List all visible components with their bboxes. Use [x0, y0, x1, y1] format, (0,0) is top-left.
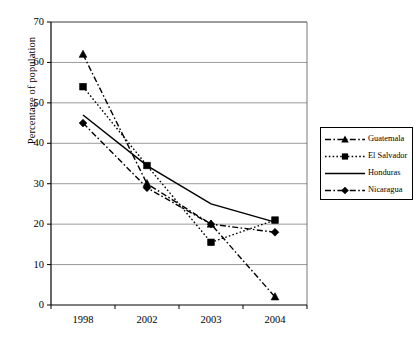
legend-entry-honduras: Honduras: [321, 165, 412, 182]
series-line-guatemala: [83, 54, 275, 297]
chart-legend: GuatemalaEl SalvadorHondurasNicaragua: [320, 127, 413, 200]
x-axis-tick-label: 1998: [53, 315, 113, 325]
legend-label: Honduras: [368, 168, 401, 177]
x-axis-tick-label: 2004: [245, 315, 305, 325]
legend-label: Guatemala: [368, 134, 404, 143]
data-point-el-salvador-2003: [208, 239, 215, 246]
legend-entry-el-salvador: El Salvador: [321, 148, 412, 165]
legend-swatch-square-dotted: [324, 148, 366, 165]
series-line-nicaragua: [83, 123, 275, 232]
legend-label: Nicaragua: [368, 185, 402, 194]
y-axis-tick-label: 0: [18, 300, 44, 310]
y-axis-title: Percentage of population: [26, 0, 37, 191]
legend-swatch-none-solid: [324, 165, 366, 182]
legend-swatch-diamond-dash-dot: [324, 182, 366, 199]
legend-entry-guatemala: Guatemala: [321, 131, 412, 148]
y-axis-tick-label: 40: [18, 138, 44, 148]
x-axis-tick-label: 2002: [117, 315, 177, 325]
legend-swatch-triangle-dash-dot: [324, 131, 366, 148]
data-point-el-salvador-2004: [272, 217, 279, 224]
y-axis-tick-label: 60: [18, 57, 44, 67]
legend-marker: [342, 153, 348, 159]
y-axis-tick-label: 10: [18, 260, 44, 270]
x-axis-tick-label: 2003: [181, 315, 241, 325]
y-axis-tick-label: 50: [18, 98, 44, 108]
legend-entry-nicaragua: Nicaragua: [321, 182, 412, 199]
legend-label: El Salvador: [368, 151, 407, 160]
y-axis-tick-label: 70: [18, 17, 44, 27]
chart-figure: Percentage of population 706050403020100…: [0, 0, 419, 348]
data-point-el-salvador-2002: [144, 162, 151, 169]
series-line-el-salvador: [83, 87, 275, 243]
data-point-nicaragua-2004: [271, 228, 279, 236]
y-axis-tick-label: 20: [18, 219, 44, 229]
legend-marker: [341, 187, 349, 195]
data-point-guatemala-1998: [79, 50, 87, 57]
y-axis-tick-label: 30: [18, 179, 44, 189]
data-point-el-salvador-1998: [80, 83, 87, 90]
